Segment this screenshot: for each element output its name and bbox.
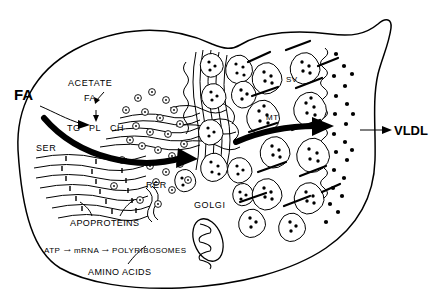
- label-amino-acids: AMINO ACIDS: [88, 267, 151, 277]
- label-ch: CH: [110, 123, 124, 133]
- label-sv: SV: [286, 75, 298, 84]
- hepatocyte-diagram: FA ACETATE FA TG PL CH SER RER GOLGI APO…: [0, 0, 439, 305]
- label-acetate: ACETATE: [68, 78, 112, 88]
- label-rer: RER: [146, 180, 167, 190]
- label-golgi: GOLGI: [194, 200, 226, 210]
- arrow-atp-to-mrna: →: [62, 242, 73, 254]
- label-pl: PL: [89, 123, 101, 133]
- label-ser: SER: [36, 143, 56, 153]
- arrow-mrna-to-polyribosomes: →: [100, 242, 111, 254]
- label-tg: TG: [67, 123, 81, 133]
- figure-background: [0, 0, 439, 305]
- label-vldl: VLDL: [394, 123, 428, 138]
- label-fa-internal: FA: [84, 93, 96, 103]
- label-polyribosomes: POLYRIBOSOMES: [112, 246, 186, 255]
- label-mt: MT: [266, 113, 279, 122]
- label-apoproteins: APOPROTEINS: [70, 218, 139, 228]
- label-mrna: mRNA: [74, 246, 99, 255]
- label-fa-external: FA: [14, 86, 33, 103]
- label-atp: ATP: [44, 246, 60, 255]
